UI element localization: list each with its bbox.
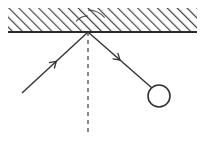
physics-diagram-svg xyxy=(0,0,203,151)
hatched-mirror-surface xyxy=(8,8,197,32)
hatch-fill xyxy=(8,8,197,31)
reflection-diagram xyxy=(0,0,203,151)
